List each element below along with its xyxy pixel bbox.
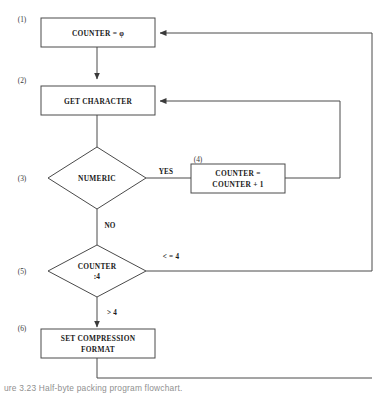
- connector-6-to-return: [97, 358, 372, 378]
- flowchart-figure: (1) COUNTER = φ (2) GET CHARACTER (3) NU…: [0, 0, 389, 394]
- node-4-label-line2: COUNTER + 1: [212, 180, 263, 189]
- step-number-6: (6): [18, 324, 27, 333]
- node-5-label-line2: :4: [94, 272, 101, 281]
- step-number-2: (2): [18, 76, 27, 85]
- node-4-label-line1: COUNTER =: [215, 169, 260, 178]
- branch-label-yes: YES: [159, 168, 174, 176]
- step-number-4: (4): [194, 155, 203, 164]
- step-number-1: (1): [18, 15, 27, 24]
- node-5-counter-compare-decision: [48, 245, 146, 297]
- node-6-label-line2: FORMAT: [81, 345, 115, 354]
- node-5-label-line1: COUNTER: [78, 262, 117, 271]
- figure-caption-text: ure 3.23 Half-byte packing program flowc…: [4, 383, 182, 393]
- branch-label-le4: < = 4: [163, 253, 180, 261]
- figure-caption: ure 3.23 Half-byte packing program flowc…: [0, 383, 389, 394]
- node-2-label: GET CHARACTER: [64, 97, 133, 106]
- node-3-label: NUMERIC: [78, 174, 116, 183]
- flowchart-canvas: (1) COUNTER = φ (2) GET CHARACTER (3) NU…: [0, 0, 389, 394]
- branch-label-gt4: > 4: [107, 309, 117, 317]
- branch-label-no: NO: [104, 222, 115, 230]
- step-number-3: (3): [18, 174, 27, 183]
- node-1-label: COUNTER = φ: [72, 29, 124, 38]
- node-6-label-line1: SET COMPRESSION: [61, 334, 136, 343]
- connector-5-le4-to-1-loop: [146, 33, 372, 271]
- step-number-5: (5): [18, 267, 27, 276]
